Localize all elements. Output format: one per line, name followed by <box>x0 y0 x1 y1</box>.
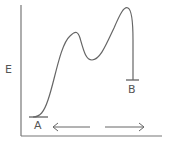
energy-curve <box>33 8 133 117</box>
state-b-label: B <box>128 84 136 95</box>
arrow-left-icon <box>53 123 90 131</box>
state-a-label: A <box>34 120 42 131</box>
energy-curve-graphic <box>0 0 169 145</box>
y-axis-label: E <box>5 64 12 75</box>
energy-diagram: E A B <box>0 0 169 145</box>
arrow-right-icon <box>105 123 144 131</box>
